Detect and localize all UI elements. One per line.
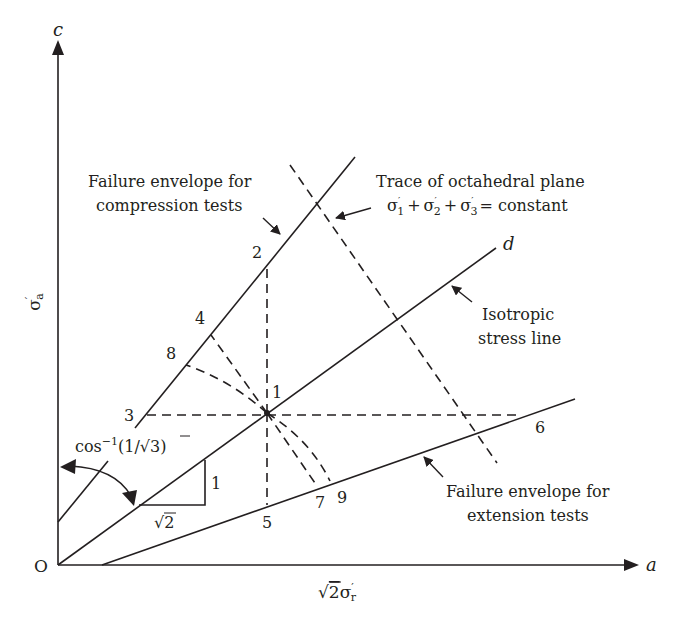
horizontal-axis-arrow-icon (624, 559, 639, 571)
compression-label-leader (263, 218, 280, 234)
extension-envelope-label: Failure envelope for extension tests (446, 482, 614, 525)
point-label-3: 3 (124, 406, 134, 425)
point-label-5: 5 (262, 513, 272, 532)
point-label-8: 8 (166, 344, 176, 363)
compression-envelope-lower (58, 461, 108, 522)
point-1-marker (264, 410, 270, 416)
stress-path-1-7 (267, 413, 317, 486)
vertical-axis-title: σ′a (23, 293, 46, 311)
origin-label: O (34, 556, 48, 576)
isotropic-line-label: Isotropic stress line (478, 305, 561, 348)
angle-label: cos−1(1/√3) (75, 435, 166, 456)
stress-path-diagram: c a O σ′a √2σ′r d 1 2 3 4 5 6 7 8 9 Fail… (0, 0, 673, 630)
stress-path-1-4 (211, 335, 267, 413)
slope-run-label: √2 (154, 513, 174, 532)
compression-envelope-label: Failure envelope for compression tests (88, 172, 256, 215)
point-label-7: 7 (315, 493, 325, 512)
axis-label-a: a (646, 554, 657, 575)
slope-rise-label: 1 (211, 474, 221, 493)
point-label-6: 6 (535, 418, 545, 437)
isotropic-line-label-d: d (503, 233, 515, 254)
horizontal-axis-title: √2σ′r (318, 581, 357, 604)
point-label-1: 1 (272, 383, 282, 402)
octahedral-trace-label: Trace of octahedral plane (376, 172, 585, 191)
svg-text:σ′a: σ′a (23, 293, 46, 311)
point-label-4: 4 (195, 309, 205, 328)
stress-path-1-8 (186, 365, 267, 413)
extension-label-leader (424, 457, 443, 477)
axis-label-c: c (53, 19, 63, 40)
stress-path-1-9 (267, 413, 330, 481)
vertical-axis-arrow-icon (52, 40, 64, 55)
angle-arrow-left-icon (60, 459, 76, 474)
point-label-2: 2 (252, 243, 262, 262)
angle-arrow-right-icon (122, 490, 137, 506)
octahedral-trace-equation: σ′1+σ′2+σ′3= constant (387, 195, 568, 218)
isotropic-label-leader (452, 286, 472, 302)
octahedral-label-leader (336, 208, 371, 218)
point-label-9: 9 (337, 488, 347, 507)
